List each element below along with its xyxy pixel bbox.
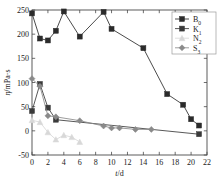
y-tick-label: 250 bbox=[17, 6, 29, 15]
data-point-B0 bbox=[61, 9, 66, 14]
legend-marker-K1 bbox=[180, 26, 185, 31]
x-tick-label: 0 bbox=[30, 158, 34, 167]
chart-figure: 0246810121416182022-50050100150200250 t/… bbox=[0, 0, 219, 187]
data-point-B0 bbox=[37, 36, 42, 41]
data-point-B0 bbox=[101, 9, 106, 14]
data-point-K1 bbox=[30, 109, 35, 114]
data-point-B0 bbox=[30, 11, 35, 16]
x-tick-label: 18 bbox=[171, 158, 179, 167]
x-tick-label: 12 bbox=[123, 158, 131, 167]
viscosity-time-line-chart: 0246810121416182022-50050100150200250 t/… bbox=[0, 0, 219, 187]
x-tick-label: 4 bbox=[62, 158, 66, 167]
chart-legend: B0K1N2S3 bbox=[172, 12, 216, 55]
x-tick-label: 20 bbox=[187, 158, 195, 167]
x-tick-label: 2 bbox=[46, 158, 50, 167]
y-tick-label: -50 bbox=[18, 151, 29, 160]
data-point-B0 bbox=[165, 92, 170, 97]
y-tick-label: 100 bbox=[17, 79, 29, 88]
data-point-K1 bbox=[197, 132, 202, 137]
x-tick-label: 8 bbox=[94, 158, 98, 167]
data-point-B0 bbox=[197, 123, 202, 128]
data-point-B0 bbox=[45, 38, 50, 43]
x-tick-label: 22 bbox=[203, 158, 211, 167]
y-tick-label: 50 bbox=[21, 103, 29, 112]
data-point-B0 bbox=[189, 117, 194, 122]
data-point-B0 bbox=[181, 102, 186, 107]
data-point-B0 bbox=[109, 26, 114, 31]
x-tick-label: 10 bbox=[108, 158, 116, 167]
x-axis-title: t/d bbox=[115, 169, 123, 178]
y-tick-label: 150 bbox=[17, 54, 29, 63]
data-point-B0 bbox=[77, 34, 82, 39]
y-tick-label: 0 bbox=[25, 127, 29, 136]
data-point-B0 bbox=[53, 28, 58, 33]
x-tick-label: 6 bbox=[78, 158, 82, 167]
y-tick-label: 200 bbox=[17, 30, 29, 39]
data-point-B0 bbox=[141, 46, 146, 51]
y-axis-title: η/mPa·s bbox=[3, 69, 12, 95]
legend-marker-B0 bbox=[180, 17, 185, 22]
x-tick-label: 16 bbox=[155, 158, 163, 167]
x-tick-label: 14 bbox=[139, 158, 147, 167]
